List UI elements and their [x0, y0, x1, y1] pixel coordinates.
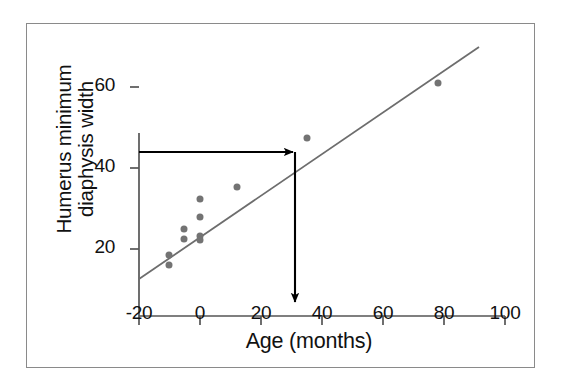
annotation-arrows: [139, 152, 295, 302]
scatter-points: [166, 80, 442, 269]
data-point: [166, 252, 173, 259]
axis-spines: [139, 133, 505, 316]
x-tick-label: 0: [170, 302, 230, 324]
x-axis-label-wrapper: Age (months): [27, 329, 536, 354]
data-point: [197, 214, 204, 221]
data-point: [435, 80, 442, 87]
data-point: [234, 184, 241, 191]
data-point: [197, 237, 204, 244]
data-point: [166, 262, 173, 269]
figure-container: Humerus minimum diaphysis width: [0, 0, 567, 387]
x-axis-label: Age (months): [191, 329, 373, 354]
y-axis-ticks: [130, 87, 139, 249]
y-tick-label: 40: [63, 155, 115, 177]
x-tick-label: 40: [292, 302, 352, 324]
data-point: [304, 135, 311, 142]
data-point: [181, 236, 188, 243]
x-tick-label: 60: [353, 302, 413, 324]
x-tick-label: 20: [231, 302, 291, 324]
y-tick-label: 60: [63, 74, 115, 96]
x-tick-label: 100: [475, 302, 535, 324]
data-point: [197, 196, 204, 203]
x-tick-label: -20: [109, 302, 169, 324]
x-tick-label: 80: [414, 302, 474, 324]
regression-line: [139, 47, 479, 279]
y-tick-label: 20: [63, 236, 115, 258]
data-point: [181, 226, 188, 233]
plot-area: 20 40 60 -20 0 20 40 60 80 100 Age (mont…: [27, 24, 536, 369]
figure-frame: Humerus minimum diaphysis width: [26, 23, 535, 368]
